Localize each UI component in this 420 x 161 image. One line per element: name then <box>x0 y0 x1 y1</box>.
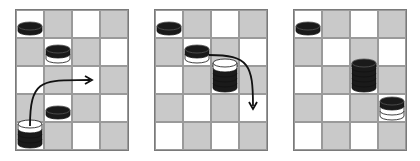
board-square-r0-c3[interactable] <box>378 10 406 38</box>
board-square-r2-c1[interactable] <box>322 66 350 94</box>
board-square-r3-c2[interactable] <box>350 94 378 122</box>
board-square-r4-c1[interactable] <box>44 122 72 150</box>
board-square-r4-c3[interactable] <box>378 122 406 150</box>
board-square-r3-c2[interactable] <box>211 94 239 122</box>
board-1 <box>15 9 129 151</box>
board-square-r0-c2[interactable] <box>350 10 378 38</box>
board-square-r2-c3[interactable] <box>100 66 128 94</box>
board-square-r2-c0[interactable] <box>294 66 322 94</box>
board-square-r2-c1[interactable] <box>183 66 211 94</box>
board-square-r3-c1[interactable] <box>322 94 350 122</box>
board-square-r1-c1[interactable] <box>322 38 350 66</box>
board-square-r2-c0[interactable] <box>155 66 183 94</box>
board-square-r1-c2[interactable] <box>72 38 100 66</box>
board-square-r4-c3[interactable] <box>239 122 267 150</box>
board-square-r4-c1[interactable] <box>322 122 350 150</box>
board-square-r0-c1[interactable] <box>322 10 350 38</box>
checker-piece-icon[interactable] <box>295 21 321 40</box>
board-square-r1-c0[interactable] <box>294 38 322 66</box>
piece-stack-icon[interactable] <box>379 96 405 125</box>
board-square-r4-c2[interactable] <box>72 122 100 150</box>
board-square-r4-c1[interactable] <box>183 122 211 150</box>
board-square-r4-c0[interactable] <box>155 122 183 150</box>
board-square-r1-c0[interactable] <box>155 38 183 66</box>
board-square-r1-c3[interactable] <box>378 38 406 66</box>
checker-piece-icon[interactable] <box>156 21 182 40</box>
piece-stack-icon[interactable] <box>17 119 43 153</box>
piece-stack-icon[interactable] <box>351 58 377 97</box>
board-square-r3-c3[interactable] <box>100 94 128 122</box>
board-square-r4-c3[interactable] <box>100 122 128 150</box>
board-square-r4-c2[interactable] <box>350 122 378 150</box>
board-2 <box>154 9 268 151</box>
board-square-r3-c0[interactable] <box>294 94 322 122</box>
board-square-r2-c3[interactable] <box>239 66 267 94</box>
board-square-r1-c3[interactable] <box>100 38 128 66</box>
board-3 <box>293 9 407 151</box>
board-square-r3-c0[interactable] <box>16 94 44 122</box>
board-square-r2-c1[interactable] <box>44 66 72 94</box>
board-square-r1-c3[interactable] <box>239 38 267 66</box>
board-square-r0-c3[interactable] <box>239 10 267 38</box>
board-square-r3-c1[interactable] <box>183 94 211 122</box>
board-square-r3-c0[interactable] <box>155 94 183 122</box>
board-square-r3-c2[interactable] <box>72 94 100 122</box>
board-square-r0-c3[interactable] <box>100 10 128 38</box>
checker-piece-icon[interactable] <box>45 105 71 124</box>
board-square-r4-c0[interactable] <box>294 122 322 150</box>
piece-stack-icon[interactable] <box>45 44 71 68</box>
board-square-r4-c2[interactable] <box>211 122 239 150</box>
board-square-r0-c2[interactable] <box>72 10 100 38</box>
board-square-r0-c1[interactable] <box>44 10 72 38</box>
piece-stack-icon[interactable] <box>212 58 238 97</box>
board-square-r3-c3[interactable] <box>239 94 267 122</box>
board-square-r1-c0[interactable] <box>16 38 44 66</box>
board-square-r2-c0[interactable] <box>16 66 44 94</box>
checker-piece-icon[interactable] <box>17 21 43 40</box>
piece-stack-icon[interactable] <box>184 44 210 68</box>
board-square-r0-c1[interactable] <box>183 10 211 38</box>
board-square-r2-c3[interactable] <box>378 66 406 94</box>
board-square-r0-c2[interactable] <box>211 10 239 38</box>
board-square-r2-c2[interactable] <box>72 66 100 94</box>
